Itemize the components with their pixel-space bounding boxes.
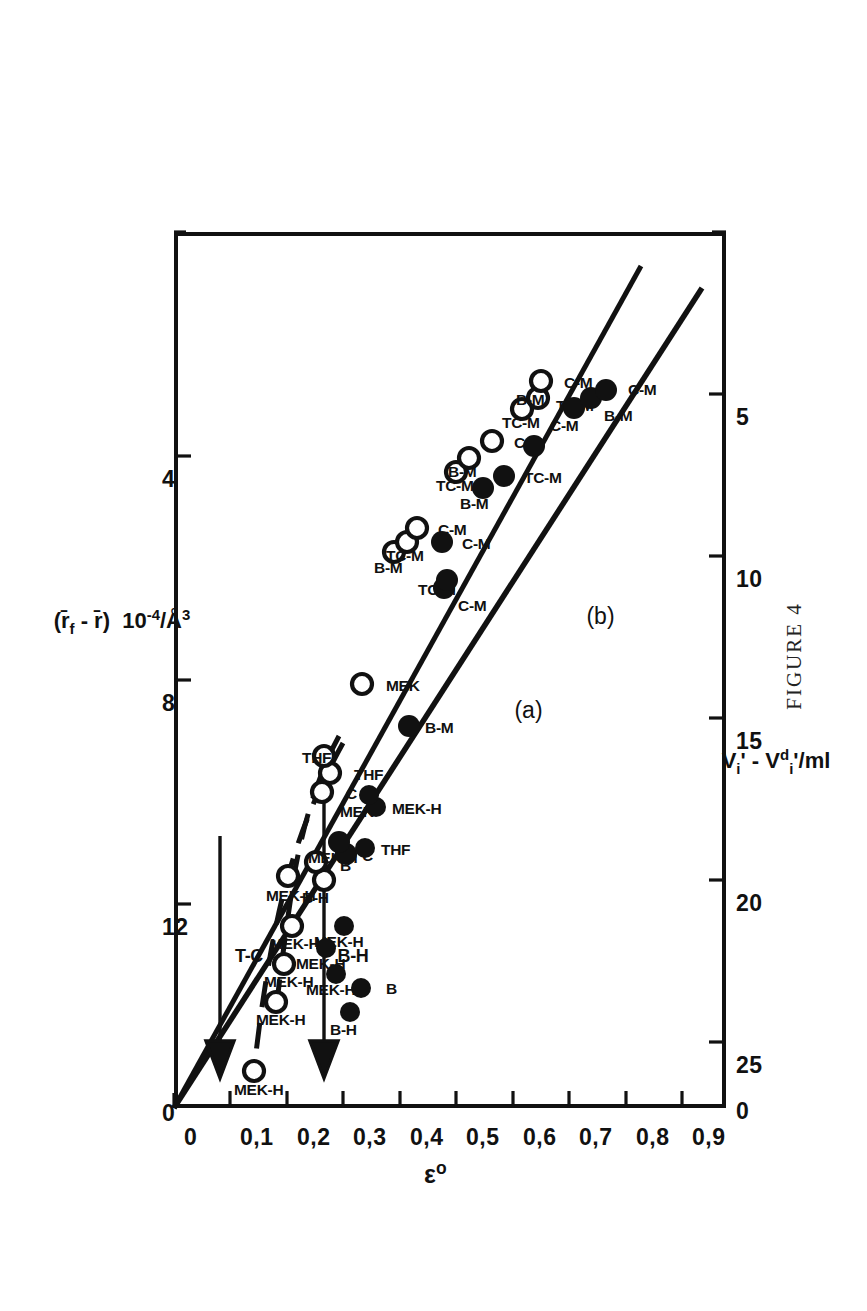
right-axis-tick-10: 10 (736, 566, 763, 593)
x-tick-0-9: 0,9 (692, 1124, 725, 1151)
point-label-a-13: C-M (438, 522, 466, 538)
point-label-a-12: TC-M (386, 548, 424, 564)
x-tick-0-5: 0,5 (466, 1124, 499, 1151)
point-label-a-3: MEK-H (270, 936, 319, 952)
point-label-a-0: MEK-H (234, 1082, 283, 1098)
left-axis-title: (r̄f - r̄) 10-4/Å3 (53, 606, 190, 637)
right-axis-tick-0: 0 (736, 1098, 749, 1125)
left-axis-tick-8: 8 (162, 690, 175, 717)
x-tick-0-7: 0,7 (579, 1124, 612, 1151)
x-tick-0-8: 0,8 (636, 1124, 669, 1151)
arrow-label-t-c: T-C (234, 947, 262, 965)
figure-caption: FIGURE 4 (783, 602, 808, 710)
point-label-b-11: C-M (458, 598, 486, 614)
point-label-b-0: B-H (330, 1022, 357, 1038)
x-tick-0-6: 0,6 (523, 1124, 556, 1151)
right-axis-tick-20: 20 (736, 890, 763, 917)
left-axis-tick-4: 4 (162, 466, 175, 493)
arrow-t-c-graphic (206, 836, 234, 1078)
plot-graphics (114, 136, 754, 1176)
point-label-b-12: TC-M (418, 582, 456, 598)
point-label-b-4: MEK-H (314, 934, 363, 950)
point-label-b-18: B-M (604, 408, 632, 424)
point-label-a-16: C-M (514, 435, 542, 451)
point-label-b-7: THF (381, 842, 410, 858)
point-label-b-5: C (362, 848, 373, 864)
point-label-a-8: THF (354, 767, 383, 783)
x-axis-title: εo (424, 1158, 447, 1189)
figure-root: 0 4 8 12 0 5 10 15 20 25 0 0,1 0,2 0,3 0… (0, 0, 867, 1311)
series-label-b: (b) (586, 602, 614, 629)
right-axis-title: Vi' - Vdi'/ml (721, 746, 830, 777)
plot-rotated-wrapper: 0 4 8 12 0 5 10 15 20 25 0 0,1 0,2 0,3 0… (114, 136, 754, 1176)
right-axis-tick-5: 5 (736, 404, 749, 431)
point-label-b-19: C-M (628, 382, 656, 398)
point-label-a-5: B-H (302, 890, 329, 906)
point-label-b-8: MEK-H (392, 801, 441, 817)
point-label-a-17: TC-M (502, 415, 540, 431)
point-label-b-16: C-M (550, 418, 578, 434)
x-tick-0-2: 0,2 (297, 1124, 330, 1151)
point-label-b-14: B-M (460, 496, 488, 512)
point-label-b-1: B (386, 981, 397, 997)
point-label-a-6: B (340, 858, 351, 874)
left-axis-tick-12: 12 (162, 914, 189, 941)
point-label-a-1: MEK-H (256, 1012, 305, 1028)
left-axis-tick-0: 0 (162, 1100, 175, 1127)
point-label-a-18: B-M (516, 392, 544, 408)
point-label-b-17: TC-M (556, 398, 594, 414)
point-label-a-7: C (346, 786, 357, 802)
point-label-b-15: TC-M (524, 470, 562, 486)
point-label-a-10: MEK (386, 678, 420, 694)
x-tick-0-3: 0,3 (353, 1124, 386, 1151)
point-label-a-15: B-M (448, 464, 476, 480)
x-tick-0-4: 0,4 (410, 1124, 443, 1151)
point-label-a-2: MEK-H (264, 974, 313, 990)
series-label-a: (a) (514, 696, 542, 723)
point-label-b-3: MEK-H (296, 956, 345, 972)
point-label-b-10: B-M (425, 720, 453, 736)
x-tick-0: 0 (184, 1124, 197, 1151)
right-axis-tick-25: 25 (736, 1052, 763, 1079)
point-label-b-9: MEK (340, 804, 374, 820)
plot-canvas: 0 4 8 12 0 5 10 15 20 25 0 0,1 0,2 0,3 0… (114, 136, 754, 1176)
x-tick-0-1: 0,1 (240, 1124, 273, 1151)
left-axis-ticks (174, 232, 191, 904)
point-label-a-19: C-M (564, 375, 592, 391)
point-label-a-9: THF (302, 750, 331, 766)
right-axis-ticks (709, 232, 726, 1042)
